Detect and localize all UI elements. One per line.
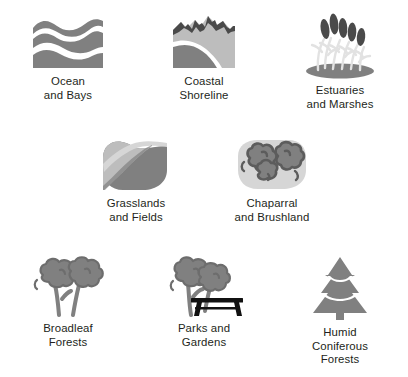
coastal-cliff-icon xyxy=(167,8,241,70)
legend-item-label: Ocean and Bays xyxy=(44,75,92,102)
legend-item-broadleaf-forests[interactable]: Broadleaf Forests xyxy=(0,255,136,349)
legend-item-coastal-shoreline[interactable]: Coastal Shoreline xyxy=(136,8,272,102)
legend-item-ocean-and-bays[interactable]: Ocean and Bays xyxy=(0,8,136,102)
legend-item-humid-coniferous-forests[interactable]: Humid Coniferous Forests xyxy=(272,255,408,367)
legend-item-label: Broadleaf Forests xyxy=(43,322,93,349)
legend-item-label: Chaparral and Brushland xyxy=(235,197,310,224)
legend-item-grasslands-and-fields[interactable]: Grasslands and Fields xyxy=(68,130,204,224)
cattail-marsh-icon xyxy=(298,8,382,80)
legend-item-label: Coastal Shoreline xyxy=(179,75,228,102)
ocean-waves-icon xyxy=(31,8,105,70)
rolling-hill-icon xyxy=(99,130,173,192)
shrub-cluster-icon xyxy=(232,130,312,192)
habitat-legend-grid: Ocean and Bays Coastal Shoreline xyxy=(0,0,408,377)
legend-item-chaparral-and-brushland[interactable]: Chaparral and Brushland xyxy=(204,130,340,224)
legend-item-label: Humid Coniferous Forests xyxy=(312,326,368,367)
legend-item-label: Parks and Gardens xyxy=(178,322,230,349)
broadleaf-trees-icon xyxy=(29,255,107,317)
legend-item-label: Grasslands and Fields xyxy=(107,197,166,224)
legend-item-estuaries-and-marshes[interactable]: Estuaries and Marshes xyxy=(272,8,408,111)
conifer-tree-icon xyxy=(305,255,375,321)
legend-item-label: Estuaries and Marshes xyxy=(307,84,374,111)
legend-item-parks-and-gardens[interactable]: Parks and Gardens xyxy=(136,255,272,349)
tree-with-bench-icon xyxy=(161,255,247,317)
